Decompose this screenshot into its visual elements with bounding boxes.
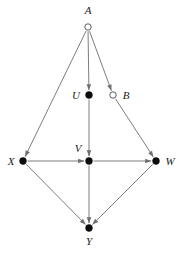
arrowhead-a-to-u (87, 84, 92, 90)
node-label-b: B (123, 89, 130, 101)
edge-layer (25, 31, 153, 225)
edge-b-to-w (115, 99, 153, 157)
arrowhead-a-to-x (25, 150, 30, 156)
arrowhead-v-to-w (145, 159, 151, 164)
edge-w-to-y (92, 164, 152, 224)
edge-u-to-v (87, 100, 92, 157)
node-b[interactable] (110, 92, 116, 98)
node-layer (20, 24, 160, 232)
node-w[interactable] (153, 158, 160, 165)
node-label-u: U (72, 89, 81, 101)
node-label-w: W (165, 155, 175, 167)
arrowhead-b-to-w (148, 151, 153, 157)
node-u[interactable] (86, 92, 93, 99)
node-a[interactable] (85, 24, 91, 30)
edge-v-to-y (87, 166, 92, 224)
arrowhead-a-to-b (107, 84, 111, 90)
edge-v-to-w (94, 159, 152, 164)
edge-a-to-b (90, 31, 112, 91)
edge-a-to-u (87, 31, 92, 90)
node-x[interactable] (20, 158, 27, 165)
edge-x-to-y (26, 164, 85, 224)
arrowhead-u-to-v (87, 150, 92, 156)
graph-canvas: AUBXVWY (0, 0, 182, 253)
node-label-v: V (75, 142, 83, 154)
node-label-x: X (7, 155, 16, 167)
arrowhead-x-to-v (78, 159, 84, 164)
node-label-a: A (84, 4, 92, 16)
graph-figure: AUBXVWY (0, 0, 182, 253)
node-y[interactable] (86, 225, 93, 232)
arrowhead-v-to-y (87, 217, 92, 223)
label-layer: AUBXVWY (7, 4, 176, 247)
edge-x-to-v (28, 159, 85, 164)
node-v[interactable] (86, 158, 93, 165)
node-label-y: Y (86, 235, 94, 247)
